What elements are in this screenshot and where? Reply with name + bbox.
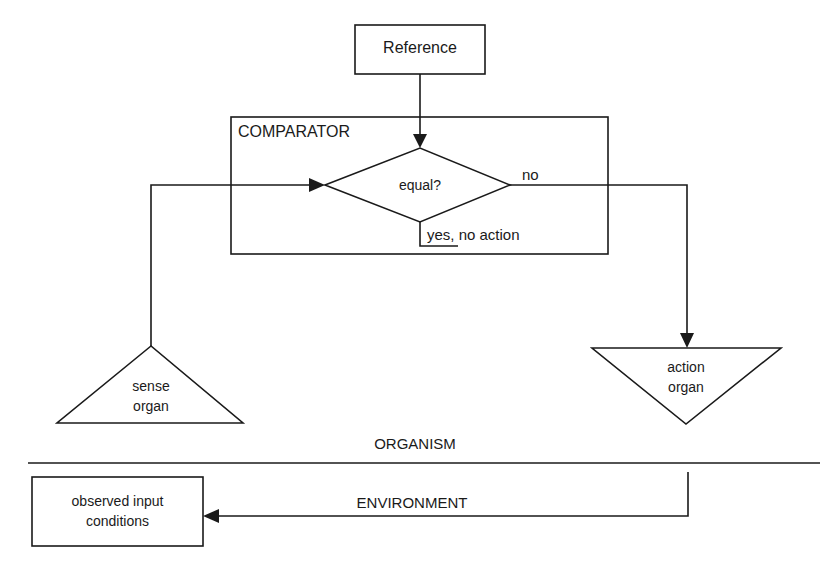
comparator-label: COMPARATOR <box>238 123 350 141</box>
no-branch-label: no <box>522 166 539 184</box>
sense-organ-label-line1: sense <box>111 377 191 395</box>
arrowhead-down-icon <box>680 333 694 348</box>
observed-input-label-line2: conditions <box>32 512 203 530</box>
sense-organ-label-line2: organ <box>111 397 191 415</box>
yes-branch-label: yes, no action <box>427 226 520 244</box>
no-branch-line <box>510 185 687 334</box>
action-organ-label-line1: action <box>646 358 726 376</box>
arrowhead-down-icon <box>413 134 427 148</box>
decision-label: equal? <box>370 176 470 194</box>
observed-input-label-line1: observed input <box>32 492 203 510</box>
environment-label: ENVIRONMENT <box>332 494 492 512</box>
action-organ-label-line2: organ <box>646 378 726 396</box>
reference-label: Reference <box>355 39 485 57</box>
arrowhead-right-icon <box>309 178 325 192</box>
arrowhead-left-icon <box>203 509 219 523</box>
organism-label: ORGANISM <box>335 435 495 453</box>
